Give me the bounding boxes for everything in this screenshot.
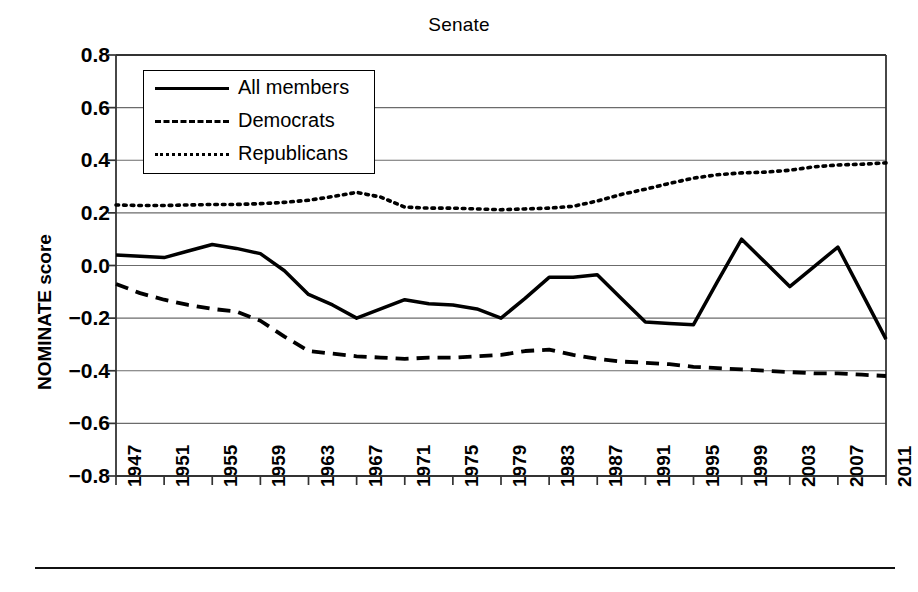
legend-item-republicans: Republicans	[144, 137, 374, 170]
chart-legend: All membersDemocratsRepublicans	[143, 70, 375, 174]
chart-figure: Senate NOMINATE score 0.80.60.40.20.0−0.…	[0, 0, 918, 592]
legend-swatch-dashed-line-icon	[155, 114, 229, 128]
legend-swatch-solid-line-icon	[155, 81, 229, 95]
legend-label: Democrats	[238, 109, 335, 132]
legend-label: All members	[238, 76, 349, 99]
series-line-democrats	[116, 284, 886, 376]
footer-rule	[35, 567, 895, 569]
legend-label: Republicans	[238, 142, 348, 165]
legend-item-democrats: Democrats	[144, 104, 374, 137]
legend-item-all-members: All members	[144, 71, 374, 104]
plot-area	[0, 0, 918, 592]
series-line-all-members	[116, 239, 886, 339]
legend-swatch-dotted-line-icon	[155, 147, 229, 161]
